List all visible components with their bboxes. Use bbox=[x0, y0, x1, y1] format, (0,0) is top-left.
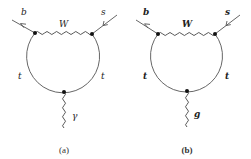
top-quark-loop bbox=[151, 34, 223, 92]
label-t-left: t bbox=[143, 71, 148, 81]
label-b: b bbox=[21, 7, 27, 17]
photon-wave bbox=[63, 92, 66, 128]
label-t-right: t bbox=[101, 71, 105, 81]
gluon-wave bbox=[186, 91, 189, 127]
s-quark-line bbox=[92, 15, 117, 34]
diagram-a: b s W t t γ (a) bbox=[12, 7, 117, 155]
caption-a: (a) bbox=[59, 145, 69, 155]
feynman-diagrams: b s W t t γ (a) b s W t t g (b) bbox=[0, 0, 251, 159]
top-quark-loop bbox=[27, 33, 100, 93]
label-s: s bbox=[101, 7, 106, 17]
s-quark-line bbox=[215, 15, 240, 34]
vertex-right bbox=[213, 32, 217, 36]
vertex-bottom bbox=[62, 90, 66, 94]
caption-b: (b) bbox=[182, 145, 193, 155]
w-boson-wave bbox=[35, 32, 92, 35]
label-g: g bbox=[194, 109, 200, 119]
label-b: b bbox=[143, 7, 149, 17]
vertex-left bbox=[33, 31, 37, 35]
vertex-right bbox=[90, 32, 94, 36]
label-t-right: t bbox=[225, 71, 230, 81]
label-w: W bbox=[182, 19, 193, 29]
label-w: W bbox=[59, 19, 69, 29]
vertex-left bbox=[156, 32, 160, 36]
vertex-bottom bbox=[185, 89, 189, 93]
label-gamma: γ bbox=[72, 111, 78, 121]
label-s: s bbox=[225, 7, 230, 17]
w-boson-wave bbox=[158, 33, 215, 36]
label-t-left: t bbox=[18, 71, 22, 81]
diagram-b: b s W t t g (b) bbox=[136, 7, 240, 155]
